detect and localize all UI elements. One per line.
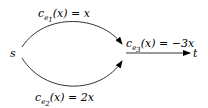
edge-e3-label: ce3(x) = −3x [126, 38, 194, 55]
edge-e1 [22, 22, 122, 48]
node-s: s [10, 48, 16, 59]
edge-e2 [22, 58, 122, 86]
edge-e2-label: ce2(x) = 2x [35, 92, 94, 108]
edge-e1-label: ce1(x) = x [38, 8, 90, 25]
network-diagram: s t ce1(x) = x ce2(x) = 2x ce3(x) = −3x [0, 0, 208, 108]
